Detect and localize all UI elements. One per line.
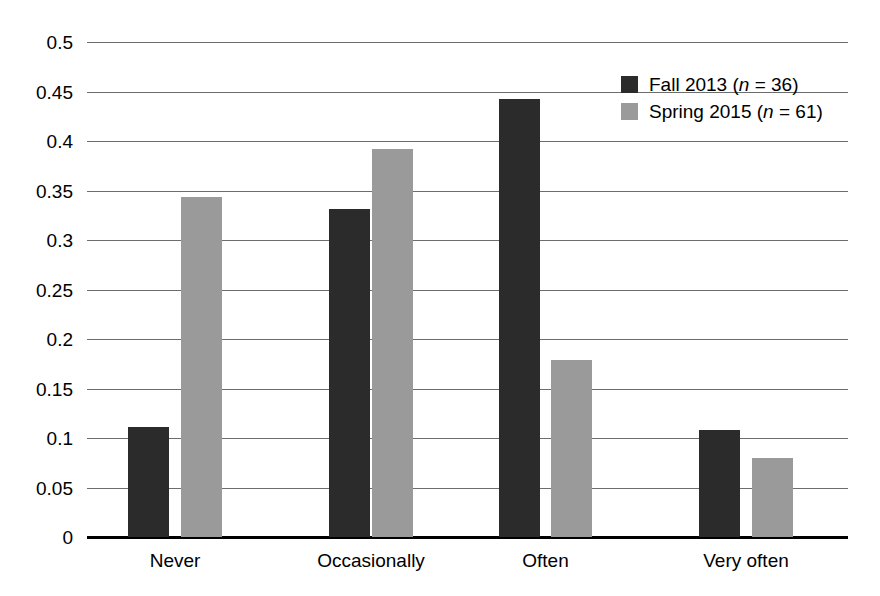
- bar: [372, 149, 413, 537]
- x-tick-label: Very often: [646, 551, 846, 570]
- gridline: [87, 42, 848, 43]
- legend-item-fall-2013: Fall 2013 (n = 36): [621, 71, 823, 98]
- y-tick-label: 0.35: [0, 182, 73, 201]
- bar: [499, 99, 540, 537]
- x-tick-label: Occasionally: [271, 551, 471, 570]
- y-tick-label: 0.05: [0, 479, 73, 498]
- y-tick-label: 0.2: [0, 330, 73, 349]
- legend-swatch-fall-2013: [621, 76, 638, 93]
- bar: [752, 458, 793, 537]
- gridline: [87, 191, 848, 192]
- legend: Fall 2013 (n = 36) Spring 2015 (n = 61): [621, 71, 823, 125]
- y-tick-label: 0.25: [0, 281, 73, 300]
- bar: [128, 427, 169, 537]
- y-tick-label: 0.1: [0, 429, 73, 448]
- bar: [699, 430, 740, 537]
- x-tick-label: Often: [446, 551, 646, 570]
- y-tick-label: 0.5: [0, 33, 73, 52]
- y-tick-label: 0.3: [0, 231, 73, 250]
- y-tick-label: 0.45: [0, 83, 73, 102]
- x-tick-label: Never: [75, 551, 275, 570]
- y-tick-label: 0: [0, 528, 73, 547]
- bar-chart: 00.050.10.150.20.250.30.350.40.450.5 Nev…: [0, 0, 880, 596]
- y-tick-label: 0.4: [0, 132, 73, 151]
- bar: [551, 360, 592, 537]
- gridline: [87, 141, 848, 142]
- y-tick-label: 0.15: [0, 380, 73, 399]
- legend-label-spring-2015: Spring 2015 (n = 61): [649, 102, 823, 121]
- bar: [329, 209, 370, 537]
- legend-label-fall-2013: Fall 2013 (n = 36): [649, 75, 798, 94]
- legend-swatch-spring-2015: [621, 103, 638, 120]
- legend-item-spring-2015: Spring 2015 (n = 61): [621, 98, 823, 125]
- bar: [181, 197, 222, 537]
